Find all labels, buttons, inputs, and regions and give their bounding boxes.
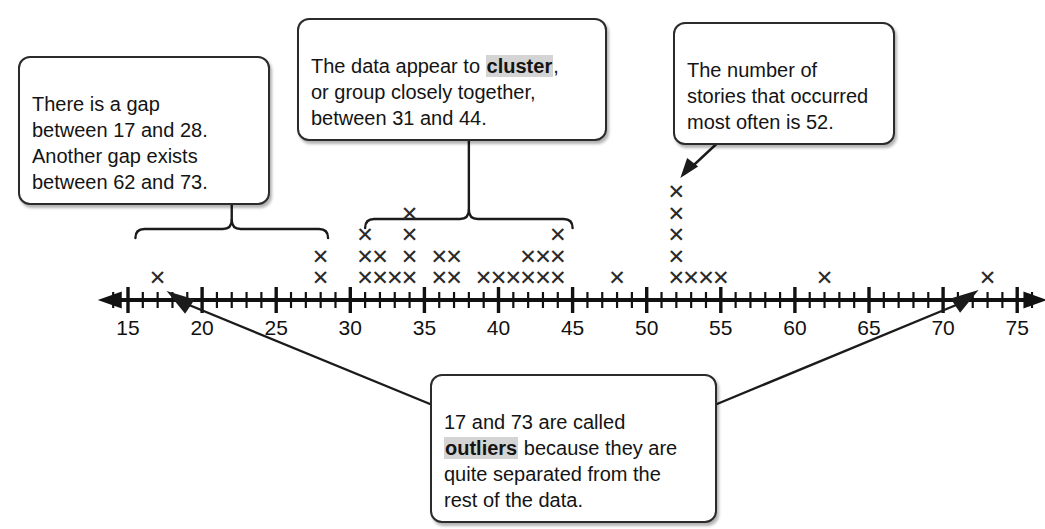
gap-callout-text: There is a gap between 17 and 28. Anothe…: [32, 93, 208, 193]
axis-tick-label-75: 75: [987, 316, 1045, 340]
dot-plot-figure: ✕✕✕✕✕✕✕✕✕✕✕✕✕✕✕✕✕✕✕✕✕✕✕✕✕✕✕✕✕✕✕✕✕✕✕✕✕✕ 1…: [0, 0, 1045, 529]
data-point-x-28: ✕: [312, 246, 330, 267]
data-point-x-48: ✕: [608, 268, 626, 289]
outlier-callout[interactable]: 17 and 73 are called outliers because th…: [430, 374, 717, 523]
data-point-x-52: ✕: [668, 203, 686, 224]
mode-callout[interactable]: The number of stories that occurred most…: [673, 22, 895, 145]
data-point-x-37: ✕: [445, 268, 463, 289]
outlier-callout-text-before: 17 and 73 are called: [444, 411, 625, 433]
data-point-x-52: ✕: [668, 182, 686, 203]
data-point-x-31: ✕: [356, 225, 374, 246]
data-point-x-32: ✕: [371, 246, 389, 267]
data-point-x-52: ✕: [668, 225, 686, 246]
axis-tick-label-25: 25: [246, 316, 306, 340]
outlier-keyword: outliers: [444, 437, 518, 459]
data-point-x-34: ✕: [401, 225, 419, 246]
data-point-x-34: ✕: [401, 268, 419, 289]
axis-tick-label-40: 40: [469, 316, 529, 340]
data-point-x-55: ✕: [712, 268, 730, 289]
data-point-x-17: ✕: [149, 268, 167, 289]
gap-callout[interactable]: There is a gap between 17 and 28. Anothe…: [18, 56, 270, 205]
number-line-axis: [98, 287, 1045, 313]
data-point-x-52: ✕: [668, 246, 686, 267]
data-point-x-44: ✕: [549, 268, 567, 289]
cluster-callout-text-before: The data appear to: [311, 55, 486, 77]
data-point-x-73: ✕: [979, 268, 997, 289]
axis-tick-label-15: 15: [98, 316, 158, 340]
data-point-x-34: ✕: [401, 203, 419, 224]
cluster-callout[interactable]: The data appear to cluster, or group clo…: [297, 18, 607, 141]
axis-tick-label-35: 35: [394, 316, 454, 340]
cluster-keyword: cluster: [486, 55, 554, 77]
data-point-x-34: ✕: [401, 246, 419, 267]
axis-tick-label-55: 55: [691, 316, 751, 340]
axis-tick-label-30: 30: [320, 316, 380, 340]
axis-tick-label-50: 50: [617, 316, 677, 340]
data-point-x-44: ✕: [549, 225, 567, 246]
axis-tick-label-65: 65: [839, 316, 899, 340]
data-point-x-37: ✕: [445, 246, 463, 267]
axis-tick-label-20: 20: [172, 316, 232, 340]
axis-tick-label-70: 70: [913, 316, 973, 340]
data-point-x-44: ✕: [549, 246, 567, 267]
mode-callout-text: The number of stories that occurred most…: [687, 59, 868, 133]
axis-tick-label-60: 60: [765, 316, 825, 340]
data-point-x-28: ✕: [312, 268, 330, 289]
data-point-x-62: ✕: [816, 268, 834, 289]
axis-tick-label-45: 45: [543, 316, 603, 340]
